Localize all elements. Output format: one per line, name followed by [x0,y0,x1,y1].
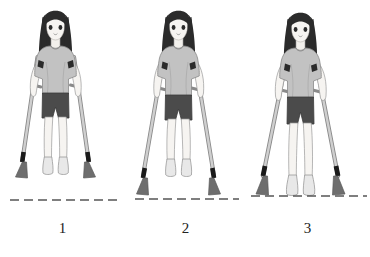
shoe-right-3 [303,175,315,196]
panel-caption-3: 3 [245,218,370,238]
shorts-1 [42,93,69,118]
figure-illustration-2 [123,0,248,215]
eye-right-1 [59,25,63,30]
figure-panel-3: 3 [245,0,370,257]
figure-illustration-3 [245,0,370,215]
eye-right-3 [304,27,308,32]
crutch-right-3 [313,62,346,195]
shorts-3 [287,97,314,124]
figure-panel-2: 2 [123,0,248,257]
leg-left-1 [44,117,53,158]
shoe-left-2 [166,159,176,177]
leg-left-2 [167,119,176,160]
leg-right-1 [58,117,67,158]
eye-left-3 [294,27,298,32]
panel-caption-1: 1 [0,218,125,238]
leg-right-2 [181,119,190,160]
figure-illustration-1 [0,0,125,215]
shoe-right-2 [181,159,191,177]
illustration-canvas: 1 [0,0,370,257]
figure-panel-1: 1 [0,0,125,257]
leg-left-3 [289,123,298,176]
eye-right-2 [182,25,186,30]
shoe-right-1 [58,157,68,175]
panel-caption-2: 2 [123,218,248,238]
shoe-left-1 [43,157,53,175]
shoe-left-3 [286,175,298,196]
eye-left-1 [49,25,53,30]
eye-left-2 [172,25,176,30]
shorts-2 [165,95,192,120]
leg-right-3 [303,123,312,176]
